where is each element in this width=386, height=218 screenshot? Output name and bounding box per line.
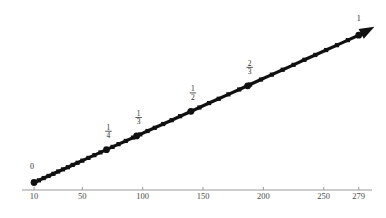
- data-point-marker: [226, 92, 230, 96]
- fraction-denominator: 3: [248, 67, 252, 76]
- data-point-marker: [110, 145, 114, 149]
- x-axis-tick-label: 10: [30, 191, 39, 201]
- data-point-marker: [302, 58, 306, 62]
- data-point-marker: [116, 142, 120, 146]
- data-point-marker: [178, 114, 182, 118]
- point-value-label: 0: [30, 162, 34, 171]
- data-point-marker: [217, 97, 221, 101]
- point-value-label: 1: [357, 14, 361, 23]
- fraction-denominator: 3: [137, 117, 141, 126]
- data-point-marker: [86, 156, 90, 160]
- fraction-denominator: 2: [191, 93, 195, 102]
- data-point-marker: [75, 161, 79, 165]
- data-point-marker: [170, 118, 174, 122]
- annotated-point-marker: [133, 133, 140, 140]
- x-axis-tick-label: 200: [257, 191, 270, 201]
- data-point-marker: [124, 139, 128, 143]
- chart-figure: 1050100150200250279 0141312231: [0, 0, 386, 218]
- data-point-marker: [346, 38, 350, 42]
- x-axis-tick-label: 150: [197, 191, 210, 201]
- x-axis-tick-label: 250: [317, 191, 330, 201]
- data-point-marker: [313, 53, 317, 57]
- data-point-marker: [66, 165, 70, 169]
- annotated-point-marker: [103, 146, 110, 153]
- annotated-point-marker: [244, 82, 251, 89]
- annotated-point-marker: [31, 179, 38, 186]
- data-point-marker: [98, 150, 102, 154]
- data-point-marker: [37, 178, 41, 182]
- data-point-marker: [61, 167, 65, 171]
- fraction-denominator: 4: [107, 131, 111, 140]
- data-point-marker: [80, 159, 84, 163]
- x-axis-tick-label: 100: [136, 191, 149, 201]
- data-point-marker: [270, 73, 274, 77]
- data-point-marker: [42, 176, 46, 180]
- annotated-point-marker: [355, 32, 362, 39]
- annotated-point-marker: [188, 108, 195, 115]
- data-point-marker: [324, 48, 328, 52]
- data-point-marker: [197, 105, 201, 109]
- x-axis-tick-label: 279: [352, 191, 365, 201]
- data-point-marker: [161, 122, 165, 126]
- data-point-marker: [259, 77, 263, 81]
- data-point-marker: [71, 163, 75, 167]
- data-point-marker: [153, 126, 157, 130]
- data-point-marker: [145, 129, 149, 133]
- data-point-marker: [51, 172, 55, 176]
- data-point-marker: [92, 153, 96, 157]
- data-point-marker: [281, 68, 285, 72]
- data-point-marker: [207, 101, 211, 105]
- data-point-marker: [237, 87, 241, 91]
- x-axis-tick-label: 50: [78, 191, 87, 201]
- data-point-marker: [291, 63, 295, 67]
- sequence-scatter-plot: 1050100150200250279 0141312231: [0, 0, 386, 218]
- data-point-marker: [56, 169, 60, 173]
- data-point-marker: [335, 43, 339, 47]
- data-point-marker: [46, 174, 50, 178]
